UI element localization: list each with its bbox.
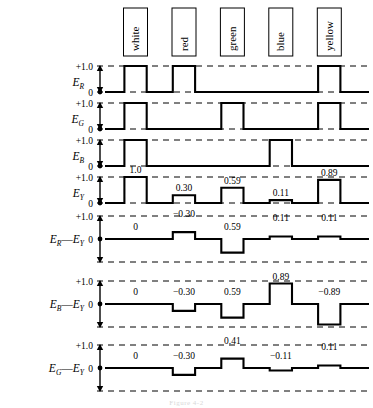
value-label-ER-EY-blue: 0.11 bbox=[273, 213, 290, 223]
value-label-EB-EY-blue: 0.89 bbox=[273, 272, 290, 282]
row-label-EB-EY: EB—EY bbox=[49, 298, 85, 313]
tick-label-zero-EY: 0 bbox=[88, 199, 93, 209]
value-label-ER-EY-white: 0 bbox=[133, 222, 138, 232]
tick-label-high-EG-EY: +1.0 bbox=[76, 341, 93, 351]
tick-label-high-EY: +1.0 bbox=[76, 173, 93, 183]
row-label-EY: EY bbox=[72, 187, 85, 202]
tick-label-high-ER-EY: +1.0 bbox=[76, 212, 93, 222]
value-label-EB-EY-green: 0.59 bbox=[224, 287, 241, 297]
axis-zero-marker-EY bbox=[98, 201, 103, 206]
color-bar-text-green: green bbox=[226, 26, 238, 51]
axis-zero-marker-EG-EY bbox=[98, 366, 103, 371]
value-label-ER-EY-red: −0.30 bbox=[173, 209, 195, 219]
tick-label-high-ER: +1.0 bbox=[76, 62, 93, 72]
waveform-row-EB-EY: +1.000−0.300.590.89−0.89 bbox=[76, 272, 369, 328]
value-label-EY-white: 1.0 bbox=[130, 165, 142, 175]
waveform-trace-EG bbox=[105, 103, 369, 129]
value-label-EB-EY-yellow: −0.89 bbox=[318, 287, 340, 297]
color-bar-label-blue: blue bbox=[269, 8, 293, 56]
tick-label-zero-EB: 0 bbox=[88, 162, 93, 172]
value-label-EG-EY-yellow: 0.11 bbox=[321, 342, 338, 352]
row-label-ER-EY: ER—EY bbox=[49, 233, 85, 248]
value-label-EG-EY-blue: −0.11 bbox=[270, 351, 292, 361]
color-bar-label-green: green bbox=[220, 8, 244, 56]
waveform-row-EG-EY: +1.000−0.300.41−0.110.11 bbox=[76, 336, 369, 392]
row-label-ER: ER bbox=[71, 76, 84, 91]
tick-label-high-EG: +1.0 bbox=[76, 99, 93, 109]
tick-label-zero-ER-EY: 0 bbox=[88, 235, 93, 245]
value-label-EG-EY-red: −0.30 bbox=[173, 351, 195, 361]
value-label-ER-EY-yellow: 0.11 bbox=[321, 213, 338, 223]
value-label-EB-EY-white: 0 bbox=[133, 287, 138, 297]
figure-canvas: whiteredgreenblueyellowER+1.00EG+1.00EB+… bbox=[0, 0, 373, 408]
waveform-row-EG: +1.00 bbox=[76, 99, 369, 135]
axis-zero-marker-EB bbox=[98, 164, 103, 169]
color-bar-label-red: red bbox=[172, 8, 196, 56]
color-bar-text-blue: blue bbox=[274, 32, 286, 51]
value-label-EY-green: 0.59 bbox=[224, 176, 241, 186]
waveform-trace-ER-EY bbox=[105, 232, 369, 253]
waveform-trace-ER bbox=[105, 66, 369, 92]
color-bar-text-yellow: yellow bbox=[323, 21, 335, 51]
value-label-EG-EY-green: 0.41 bbox=[224, 336, 241, 346]
color-bar-label-yellow: yellow bbox=[317, 8, 341, 56]
value-label-ER-EY-green: 0.59 bbox=[224, 222, 241, 232]
axis-zero-marker-EB-EY bbox=[98, 302, 103, 307]
tick-label-high-EB-EY: +1.0 bbox=[76, 277, 93, 287]
figure-caption: Figure 4-2 bbox=[0, 399, 373, 407]
value-label-EB-EY-red: −0.30 bbox=[173, 287, 195, 297]
row-label-EG: EG bbox=[71, 113, 85, 128]
color-bar-text-white: white bbox=[129, 26, 141, 51]
waveform-trace-EG-EY bbox=[105, 359, 369, 375]
tick-label-zero-EB-EY: 0 bbox=[88, 300, 93, 310]
value-label-EG-EY-white: 0 bbox=[133, 351, 138, 361]
axis-zero-marker-ER bbox=[98, 90, 103, 95]
waveform-row-EB: +1.00 bbox=[76, 136, 369, 172]
color-bar-text-red: red bbox=[178, 36, 190, 51]
tick-label-high-EB: +1.0 bbox=[76, 136, 93, 146]
waveform-row-EY: +1.001.00.300.590.110.89 bbox=[76, 165, 369, 209]
waveform-row-ER: +1.00 bbox=[76, 62, 369, 98]
value-label-EY-blue: 0.11 bbox=[273, 188, 290, 198]
row-label-EB: EB bbox=[71, 150, 84, 165]
value-label-EY-yellow: 0.89 bbox=[321, 168, 338, 178]
waveform-figure: whiteredgreenblueyellowER+1.00EG+1.00EB+… bbox=[0, 0, 373, 408]
axis-zero-marker-EG bbox=[98, 127, 103, 132]
axis-zero-marker-ER-EY bbox=[98, 237, 103, 242]
row-label-EG-EY: EG—EY bbox=[48, 362, 85, 377]
waveform-row-ER-EY: +1.000−0.300.590.110.11 bbox=[76, 209, 369, 263]
tick-label-zero-ER: 0 bbox=[88, 88, 93, 98]
color-bar-label-white: white bbox=[124, 8, 148, 56]
tick-label-zero-EG-EY: 0 bbox=[88, 364, 93, 374]
tick-label-zero-EG: 0 bbox=[88, 125, 93, 135]
waveform-trace-EB bbox=[105, 140, 369, 166]
value-label-EY-red: 0.30 bbox=[176, 183, 193, 193]
